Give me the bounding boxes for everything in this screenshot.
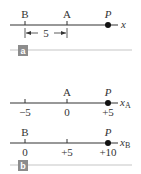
x-axis-label: x (120, 18, 126, 30)
origin-b-label: B (21, 126, 28, 138)
distance-label: 5 (43, 27, 49, 39)
xa-tick-label: 0 (64, 106, 70, 118)
panel-b-axis-b: B P xB 0 +5 +10 (10, 126, 130, 158)
xb-tick-label: +5 (61, 146, 73, 158)
particle-p-label-a: P (104, 86, 112, 98)
xa-tick-label: +5 (102, 106, 114, 118)
particle-p-label-b: P (104, 126, 112, 138)
particle-p-dot (105, 22, 111, 28)
point-a-label: A (63, 8, 71, 20)
xb-tick-label: 0 (22, 146, 28, 158)
panel-b-axis-a: A P xA −5 0 +5 (10, 86, 131, 118)
xb-axis-label: xB (119, 136, 130, 150)
particle-p-label: P (104, 8, 112, 20)
point-b-label: B (21, 8, 28, 20)
xa-axis-label: xA (119, 96, 131, 110)
reference-frames-diagram: B A P x 5 a A P xA −5 0 +5 (0, 0, 141, 174)
panel-b-tag: b (20, 161, 26, 171)
distance-marker: 5 (25, 27, 67, 39)
xb-tick-label: +10 (99, 146, 117, 158)
origin-a-label: A (63, 86, 71, 98)
panel-a: B A P x 5 a (10, 8, 132, 56)
xa-tick-label: −5 (19, 106, 31, 118)
